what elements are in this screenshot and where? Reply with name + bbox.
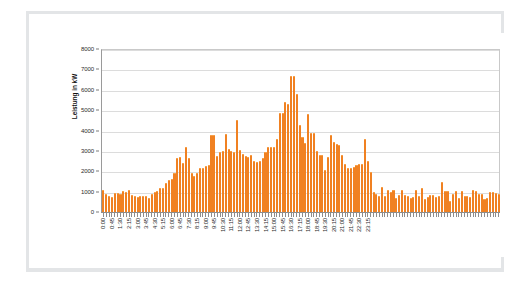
x-axis-tick	[239, 213, 240, 217]
x-axis-tick	[353, 213, 354, 217]
x-axis-tick	[288, 213, 289, 217]
figure-page: 010002000300040005000600070008000 Leistu…	[0, 0, 525, 293]
x-axis-tick	[311, 213, 312, 217]
x-axis-tick	[163, 213, 164, 217]
y-axis-tick	[96, 130, 99, 131]
y-axis-tick-label: 5000	[81, 107, 94, 113]
x-axis-tick	[399, 213, 400, 217]
figure-card: 010002000300040005000600070008000 Leistu…	[29, 14, 501, 268]
x-axis-tick	[362, 213, 363, 217]
y-axis-tick	[96, 89, 99, 90]
x-axis-tick	[205, 213, 206, 217]
x-axis-tick	[384, 213, 385, 217]
x-axis-tick	[350, 213, 351, 217]
x-axis-tick	[447, 213, 448, 217]
x-axis-tick	[151, 213, 152, 217]
x-axis-tick	[305, 213, 306, 217]
x-axis-tick	[137, 213, 138, 217]
x-axis-tick	[117, 213, 118, 217]
x-axis-tick	[342, 213, 343, 217]
x-axis-tick	[177, 213, 178, 217]
x-axis-tick	[220, 213, 221, 217]
x-axis-tick	[316, 213, 317, 217]
x-axis-tick	[413, 213, 414, 217]
x-axis-tick	[225, 213, 226, 217]
x-axis-tick	[478, 213, 479, 217]
y-axis-tick	[96, 191, 99, 192]
x-axis-tick	[367, 213, 368, 217]
bar[interactable]	[498, 194, 500, 212]
x-axis-tick	[265, 213, 266, 217]
x-axis-tick	[493, 213, 494, 217]
x-axis-tick	[328, 213, 329, 217]
y-axis-tick	[96, 110, 99, 111]
x-axis-tick	[487, 213, 488, 217]
y-axis-tick-label: 7000	[81, 66, 94, 72]
caption-band: BILD 2: Stromlastprofil	[29, 243, 501, 268]
x-axis-tick	[373, 213, 374, 217]
x-axis-tick	[274, 213, 275, 217]
x-axis-tick	[106, 213, 107, 217]
x-axis-tick	[188, 213, 189, 217]
x-axis-tick	[325, 213, 326, 217]
y-axis-tick	[96, 69, 99, 70]
y-axis-tick	[96, 171, 99, 172]
x-axis-tick	[382, 213, 383, 217]
x-axis-tick	[245, 213, 246, 217]
x-axis-tick	[450, 213, 451, 217]
x-axis-tick	[490, 213, 491, 217]
x-axis-tick	[410, 213, 411, 217]
x-axis-tick	[419, 213, 420, 217]
x-axis-tick	[376, 213, 377, 217]
x-axis-tick	[180, 213, 181, 217]
x-axis-tick	[436, 213, 437, 217]
y-axis-tick-label: 1000	[81, 189, 94, 195]
x-axis-tick	[254, 213, 255, 217]
x-axis-tick	[276, 213, 277, 217]
x-axis-tick	[416, 213, 417, 217]
y-axis-labels: 010002000300040005000600070008000	[63, 49, 99, 212]
x-axis-tick	[313, 213, 314, 217]
y-axis-tick-label: 4000	[81, 128, 94, 134]
x-axis-tick	[120, 213, 121, 217]
x-axis-tick	[222, 213, 223, 217]
x-axis-tick	[396, 213, 397, 217]
x-axis-tick	[464, 213, 465, 217]
x-axis-tick	[359, 213, 360, 217]
bar-slot	[497, 49, 500, 212]
x-axis-tick	[242, 213, 243, 217]
x-axis-tick	[183, 213, 184, 217]
x-axis-tick	[191, 213, 192, 217]
x-axis-tick	[129, 213, 130, 217]
x-axis-tick	[114, 213, 115, 217]
y-axis-tick	[96, 212, 99, 213]
x-axis-tick	[393, 213, 394, 217]
x-axis-tick	[160, 213, 161, 217]
x-axis-tick	[271, 213, 272, 217]
x-axis-tick-slot	[497, 213, 500, 217]
x-axis-tick	[293, 213, 294, 217]
x-axis-tick	[171, 213, 172, 217]
x-axis-tick	[379, 213, 380, 217]
x-axis-tick	[467, 213, 468, 217]
x-axis-tick	[202, 213, 203, 217]
y-axis-title: Leistung in kW	[71, 62, 78, 132]
x-axis-tick	[402, 213, 403, 217]
x-axis-tick	[291, 213, 292, 217]
x-axis-tick	[322, 213, 323, 217]
x-axis-tick	[438, 213, 439, 217]
x-axis-tick	[282, 213, 283, 217]
x-axis-tick	[217, 213, 218, 217]
x-axis-tick	[473, 213, 474, 217]
x-axis-tick	[430, 213, 431, 217]
x-axis-tick	[168, 213, 169, 217]
x-axis-tick	[475, 213, 476, 217]
x-axis-tick	[140, 213, 141, 217]
bar-chart: 010002000300040005000600070008000 Leistu…	[63, 33, 525, 255]
x-axis-tick	[495, 213, 496, 217]
x-axis-tick	[433, 213, 434, 217]
x-axis-tick	[157, 213, 158, 217]
x-axis-tick	[148, 213, 149, 217]
x-axis-tick	[333, 213, 334, 217]
x-axis-tick	[427, 213, 428, 217]
